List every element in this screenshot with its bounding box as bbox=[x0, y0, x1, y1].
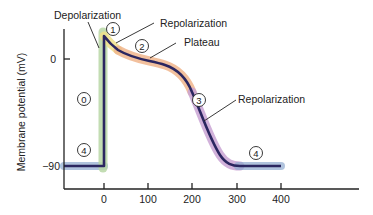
label-repolarization-early: Repolarization bbox=[160, 17, 227, 29]
x-tick-label-400: 400 bbox=[272, 193, 290, 205]
axes bbox=[64, 29, 359, 189]
phase-2-number: 2 bbox=[139, 41, 144, 52]
x-tick-label-300: 300 bbox=[228, 193, 246, 205]
phase-1-number: 1 bbox=[110, 24, 115, 35]
leader-repolarization-late bbox=[204, 100, 236, 121]
action-potential-diagram: 0 −90 0 100 200 300 400 Membrane potenti… bbox=[0, 0, 373, 215]
phase-0-number: 0 bbox=[81, 94, 86, 105]
x-tick-label-100: 100 bbox=[139, 193, 157, 205]
phase-4-left-number: 4 bbox=[81, 145, 86, 156]
y-tick-label-neg90: −90 bbox=[42, 160, 60, 172]
leader-plateau bbox=[150, 43, 176, 58]
leader-repolarization-early bbox=[116, 23, 154, 43]
label-depolarization: Depolarization bbox=[54, 9, 121, 21]
x-tick-label-200: 200 bbox=[183, 193, 201, 205]
y-axis-label: Membrane potential (mV) bbox=[15, 53, 27, 171]
label-plateau: Plateau bbox=[184, 36, 220, 48]
label-repolarization-late: Repolarization bbox=[238, 93, 305, 105]
leader-depolarization bbox=[88, 22, 99, 48]
y-tick-label-0: 0 bbox=[50, 53, 56, 65]
x-tick-label-0: 0 bbox=[101, 193, 107, 205]
phase-4-right-number: 4 bbox=[253, 148, 258, 159]
phase-3-number: 3 bbox=[196, 95, 201, 106]
